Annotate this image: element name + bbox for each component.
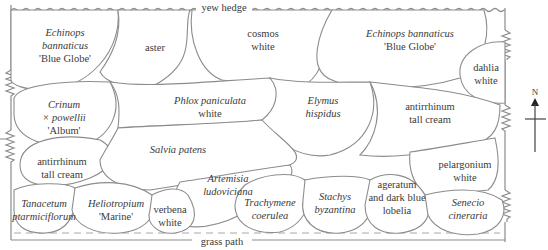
label-ageratum-l2: and dark blue (368, 192, 425, 203)
label-echinops-2-l1: Echinops bannaticus (365, 28, 454, 39)
label-heliotropium-l2: 'Marine' (99, 211, 133, 222)
label-echinops-1-l1: Echinops (44, 27, 84, 38)
label-tanacetum-l2: ptarmiciflorum (11, 211, 76, 222)
label-echinops-1-l3: 'Blue Globe' (39, 53, 91, 64)
label-elymus-l1: Elymus (307, 95, 339, 106)
label-crinum-l1: Crinum (48, 99, 81, 110)
label-crinum-l3: 'Album' (48, 125, 81, 136)
label-senecio-l1: Senecio (452, 197, 485, 208)
label-elymus-l2: hispidus (305, 108, 340, 119)
label-artemisia-l1: Artemisia (207, 173, 249, 184)
label-phlox-l2: white (198, 108, 222, 119)
label-antirrhinum-left-l2: tall cream (41, 169, 83, 180)
label-dahlia-l1: dahlia (473, 62, 499, 73)
label-aster: aster (145, 42, 165, 53)
label-echinops-1-l2: bannaticus (42, 40, 88, 51)
label-echinops-2-l2: 'Blue Globe' (384, 41, 436, 52)
label-ageratum-l1: ageratum (377, 179, 416, 190)
label-cosmos-l1: cosmos (247, 28, 279, 39)
label-pelargonium-l2: white (453, 172, 477, 183)
label-antirrhinum-right-l1: antirrhinum (405, 101, 455, 112)
label-dahlia-l2: white (474, 75, 498, 86)
label-verbena-l1: verbena (153, 204, 187, 215)
label-stachys-l1: Stachys (319, 191, 351, 202)
label-trachymene-l1: Trachymene (244, 197, 296, 208)
label-crinum-l2: × powellii (42, 112, 86, 123)
label-heliotropium-l1: Heliotropium (87, 198, 145, 209)
planting-plan-diagram: yew hedge grass path Echinops bannaticus… (0, 0, 548, 250)
label-antirrhinum-right-l2: tall cream (409, 114, 451, 125)
label-senecio-l2: cineraria (448, 210, 487, 221)
label-stachys-l2: byzantina (315, 204, 356, 215)
label-antirrhinum-left-l1: antirrhinum (37, 156, 87, 167)
label-artemisia-l2: ludoviciana (203, 186, 253, 197)
grass-path-label: grass path (201, 236, 244, 247)
label-tanacetum-l1: Tanacetum (21, 198, 67, 209)
label-cosmos-l2: white (251, 41, 275, 52)
label-salvia: Salvia patens (150, 144, 206, 155)
label-trachymene-l2: coerulea (252, 210, 289, 221)
label-phlox-l1: Phlox paniculata (173, 95, 246, 106)
north-arrow-icon: N (525, 87, 546, 152)
label-ageratum-l3: lobelia (383, 205, 412, 216)
north-label: N (532, 87, 539, 97)
label-verbena-l2: white (158, 217, 182, 228)
hedge-label: yew hedge (201, 2, 247, 13)
label-pelargonium-l1: pelargonium (439, 159, 492, 170)
